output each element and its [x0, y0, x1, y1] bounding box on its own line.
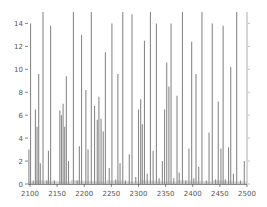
spectrum-bars — [28, 12, 246, 184]
y-tick-label: 4 — [19, 135, 24, 143]
x-tick-label: 2450 — [211, 190, 229, 198]
x-tick-label: 2350 — [157, 190, 175, 198]
y-tick-label: 8 — [19, 89, 23, 97]
y-tick-label: 14 — [14, 20, 23, 28]
y-tick-label: 10 — [14, 66, 23, 74]
x-tick-label: 2400 — [184, 190, 202, 198]
x-tick-label: 2200 — [75, 190, 93, 198]
y-tick-label: 6 — [19, 112, 24, 120]
x-tick-label: 2150 — [48, 190, 66, 198]
y-tick-label: 0 — [19, 181, 23, 189]
spectrum-chart: 2100215022002250230023502400245025000246… — [0, 0, 267, 207]
x-tick-label: 2300 — [130, 190, 148, 198]
x-tick-label: 2100 — [21, 190, 39, 198]
x-tick-label: 2250 — [102, 190, 120, 198]
y-tick-label: 2 — [19, 158, 23, 166]
y-tick-label: 12 — [14, 43, 23, 51]
x-tick-label: 2500 — [238, 190, 256, 198]
